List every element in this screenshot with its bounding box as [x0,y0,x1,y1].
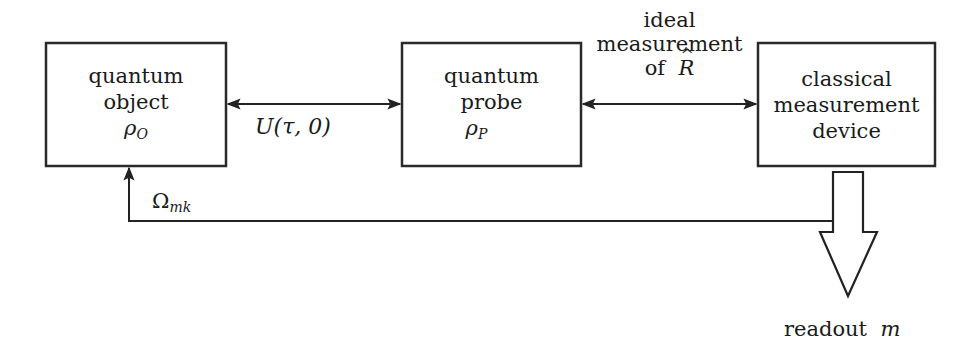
measurement-label-1: ideal [583,8,756,32]
measurement-label-3: of R [583,56,756,80]
feedback-arrow [129,168,833,221]
readout-arrow [820,172,877,296]
classical-device-label-1: classical [801,66,891,92]
unitary-label: U(τ, 0) [255,114,331,140]
quantum-object-label-2: object [103,89,168,115]
r-hat-symbol: R [678,56,694,80]
quantum-probe-label-1: quantum [444,63,539,89]
quantum-object-label-1: quantum [89,63,184,89]
measurement-label: ideal measurement of R [583,8,756,80]
rho-o-symbol: ρO [124,115,148,147]
classical-device-label-2: measurement [774,92,920,118]
quantum-object-node: quantum object ρO [46,50,226,160]
quantum-probe-node: quantum probe ρP [402,50,581,160]
rho-p-symbol: ρP [466,115,488,147]
classical-device-node: classical measurement device [758,50,935,160]
feedback-label: Ωmk [152,188,191,220]
readout-label: readout m [784,316,900,342]
quantum-probe-label-2: probe [461,89,523,115]
classical-device-label-3: device [812,118,881,144]
measurement-label-2: measurement [583,32,756,56]
